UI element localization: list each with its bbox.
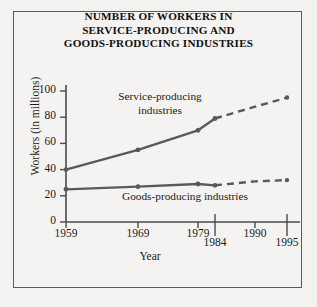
data-point-projected-end [285,95,289,99]
data-point [64,167,69,172]
data-point [136,184,141,189]
data-point-projected-end [285,178,289,182]
plot-area: Workers (in millions) Year Service-produ… [0,0,317,307]
data-point [196,182,201,187]
y-tick-label: 20 [30,188,56,200]
chart-page: NUMBER OF WORKERS IN SERVICE-PRODUCING A… [0,0,317,307]
y-tick-label: 60 [30,135,56,147]
data-point [64,187,69,192]
y-tick-label: 100 [30,83,56,95]
chart-canvas [0,0,317,307]
data-point [136,148,141,153]
series-line-solid-0 [66,119,215,170]
y-tick-label: 40 [30,162,56,174]
x-tick-label: 1995 [264,236,310,248]
data-point [196,128,201,133]
series-line-solid-1 [66,184,215,189]
data-point [213,116,218,121]
data-point [213,183,218,188]
x-tick-label: 1969 [115,227,161,239]
series-line-dashed-1 [215,180,287,185]
y-tick-label: 80 [30,109,56,121]
y-tick-label: 0 [30,214,56,226]
series-line-dashed-0 [215,98,287,119]
x-tick-label: 1959 [43,227,89,239]
